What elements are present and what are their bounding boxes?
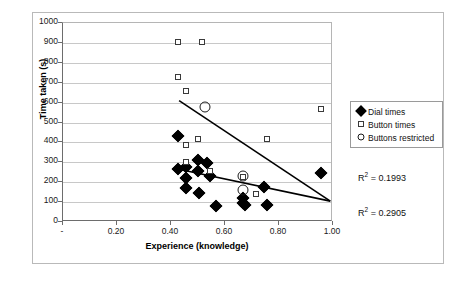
data-point-open-square xyxy=(183,88,189,94)
y-axis-tick-label: 300 xyxy=(24,156,58,164)
y-axis-tick-label: 700 xyxy=(24,77,58,85)
trendline xyxy=(179,101,330,201)
r2-lower-value: = 0.2905 xyxy=(371,208,406,218)
y-axis-tick-label: 500 xyxy=(24,117,58,125)
data-point-open-circle xyxy=(199,101,210,112)
y-axis-tick-label: 0 xyxy=(24,216,58,224)
x-axis-tick-mark xyxy=(170,221,171,225)
x-axis-tick-label: 0.80 xyxy=(258,226,298,236)
data-point-open-square xyxy=(264,136,270,142)
x-axis-tick-mark xyxy=(278,221,279,225)
legend-item-label: Buttons restricted xyxy=(368,133,434,143)
data-point-open-square xyxy=(195,136,201,142)
legend-item-label: Button times xyxy=(368,120,415,130)
data-point-open-square xyxy=(175,39,181,45)
legend-marker-open-square-icon xyxy=(355,118,368,131)
x-axis-tick-label: - xyxy=(42,226,82,236)
legend-marker-open-circle-icon xyxy=(355,131,368,144)
x-axis-tick-label: 0.60 xyxy=(204,226,244,236)
data-point-open-square xyxy=(199,39,205,45)
y-axis-tick-label: 1000 xyxy=(24,17,58,25)
y-axis-tick-label: 600 xyxy=(24,97,58,105)
data-point-open-circle xyxy=(237,171,248,182)
y-axis-tick-label: 900 xyxy=(24,37,58,45)
x-axis-tick-mark xyxy=(62,221,63,225)
r2-lower-exponent: 2 xyxy=(365,206,369,213)
legend: Dial timesButton timesButtons restricted xyxy=(350,101,443,148)
plot-area xyxy=(62,22,332,221)
data-point-open-square xyxy=(253,191,259,197)
x-axis-tick-mark xyxy=(332,221,333,225)
r2-upper-value: = 0.1993 xyxy=(371,173,406,183)
data-point-open-square xyxy=(183,159,189,165)
y-axis-tick-label: 400 xyxy=(24,136,58,144)
x-axis-tick-label: 1.00 xyxy=(312,226,352,236)
r-squared-lower-annotation: R2 = 0.2905 xyxy=(358,206,406,218)
data-point-open-square xyxy=(207,168,213,174)
y-axis-tick-label: 800 xyxy=(24,57,58,65)
x-axis-tick-mark xyxy=(116,221,117,225)
legend-item-label: Dial times xyxy=(368,107,405,117)
x-axis-tick-label: 0.20 xyxy=(96,226,136,236)
chart-figure: Time taken (s) 0100200300400500600700800… xyxy=(0,0,454,286)
x-axis-tick-label: 0.40 xyxy=(150,226,190,236)
x-axis-title: Experience (knowledge) xyxy=(62,241,332,251)
legend-marker-filled-diamond-icon xyxy=(355,105,368,118)
legend-item: Dial times xyxy=(355,105,439,118)
y-axis-tick-label: 200 xyxy=(24,176,58,184)
r2-upper-exponent: 2 xyxy=(365,171,369,178)
legend-item: Button times xyxy=(355,118,439,131)
data-point-open-square xyxy=(175,74,181,80)
x-axis-tick-mark xyxy=(224,221,225,225)
data-point-open-square xyxy=(318,106,324,112)
legend-item: Buttons restricted xyxy=(355,131,439,144)
data-point-open-circle xyxy=(237,185,248,196)
data-point-open-square xyxy=(183,142,189,148)
r-squared-upper-annotation: R2 = 0.1993 xyxy=(358,171,406,183)
y-axis-tick-label: 100 xyxy=(24,196,58,204)
